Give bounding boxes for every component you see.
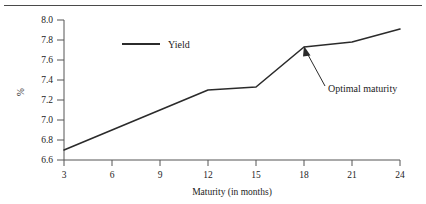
x-tick-label-12: 12 [203, 170, 213, 180]
x-axis-title: Maturity (in months) [192, 187, 272, 198]
y-axis-title: % [16, 88, 26, 96]
y-tick-label-7-8: 7.8 [41, 35, 53, 45]
x-tick-label-3: 3 [62, 170, 67, 180]
optimal-maturity-annotation: Optimal maturity [303, 46, 397, 94]
x-tick-label-18: 18 [299, 170, 309, 180]
x-tick-label-9: 9 [158, 170, 163, 180]
y-axis-ticks [57, 20, 64, 160]
arrow-icon [303, 46, 311, 57]
legend: Yield [122, 39, 190, 50]
annotation-label: Optimal maturity [328, 83, 397, 94]
yield-curve-figure: 6.6 6.8 7.0 7.2 7.4 7.6 7.8 8.0 % 3 6 9 … [0, 0, 426, 204]
y-tick-label-8-0: 8.0 [41, 15, 53, 25]
legend-label-yield: Yield [168, 39, 190, 50]
x-axis-ticks [64, 160, 400, 166]
x-tick-label-21: 21 [347, 170, 357, 180]
y-tick-label-7-6: 7.6 [41, 55, 53, 65]
yield-curve-chart: 6.6 6.8 7.0 7.2 7.4 7.6 7.8 8.0 % 3 6 9 … [0, 0, 426, 204]
x-tick-label-6: 6 [110, 170, 115, 180]
y-tick-label-7-0: 7.0 [41, 115, 53, 125]
y-tick-label-7-2: 7.2 [41, 95, 53, 105]
y-tick-label-6-6: 6.6 [41, 155, 53, 165]
x-tick-label-15: 15 [251, 170, 261, 180]
y-tick-label-6-8: 6.8 [41, 135, 53, 145]
x-tick-label-24: 24 [395, 170, 405, 180]
y-tick-label-7-4: 7.4 [41, 75, 53, 85]
annotation-arrow-line [307, 53, 325, 86]
